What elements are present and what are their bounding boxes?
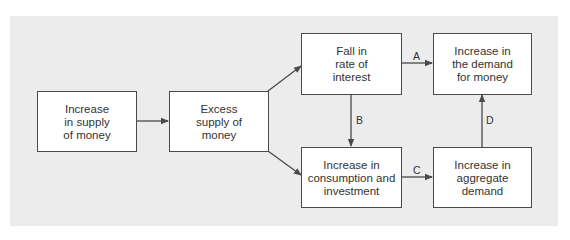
node-text-line: Increase in [452,45,513,58]
edge-label-c: C [413,164,421,176]
edge-label-b: B [356,114,363,126]
node-text-line: in supply [63,116,110,129]
node-text-line: demand [454,185,510,198]
node-text-line: Fall in [333,45,371,58]
node-text-line: Increase [63,103,110,116]
node-excess-supply-of-money: Excess supply of money [169,91,269,152]
node-text-line: the demand [452,58,513,71]
edge-label-d: D [486,114,494,126]
node-text-line: consumption and [308,172,396,185]
node-text-line: investment [308,185,396,198]
node-text-line: money [196,129,242,142]
node-text-line: of money [63,129,110,142]
node-text-line: Excess [196,103,242,116]
node-increase-consumption-investment: Increase in consumption and investment [301,147,402,208]
edge-label-a: A [413,50,420,62]
node-text-line: supply of [196,116,242,129]
node-increase-aggregate-demand: Increase in aggregate demand [433,147,532,208]
node-fall-in-rate-of-interest: Fall in rate of interest [301,33,402,95]
node-text-line: aggregate [454,172,510,185]
node-text-line: Increase in [308,159,396,172]
node-increase-demand-for-money: Increase in the demand for money [433,33,532,95]
node-increase-supply-of-money: Increase in supply of money [37,91,137,152]
node-text-line: interest [333,71,371,84]
node-text-line: for money [452,71,513,84]
node-text-line: Increase in [454,159,510,172]
node-text-line: rate of [333,58,371,71]
